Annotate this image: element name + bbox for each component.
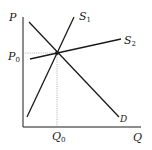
quantity-q0-label: Q0 [52, 130, 66, 144]
price-p0-label: P0 [7, 50, 20, 64]
d-label: D [119, 114, 127, 124]
supply-demand-diagram: P Q P0 Q0 S1 S2 D [0, 0, 152, 150]
x-axis-label: Q [133, 131, 142, 144]
supply-curve-s1 [27, 17, 74, 117]
quantity-label-main: Q [52, 130, 61, 143]
s1-label: S1 [79, 10, 91, 24]
price-label-sub: 0 [15, 56, 19, 64]
s2-label: S2 [124, 34, 136, 48]
quantity-label-sub: 0 [61, 136, 65, 144]
s2-label-sub: 2 [132, 40, 136, 48]
supply-curve-s2 [30, 39, 121, 59]
y-axis-label: P [8, 11, 17, 24]
s1-label-sub: 1 [87, 16, 91, 24]
equilibrium-point [55, 51, 59, 55]
demand-curve [29, 22, 119, 117]
